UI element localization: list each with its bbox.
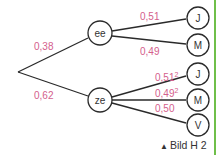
svg-text:J: J: [196, 13, 201, 24]
prob-ze-j: 0,512: [155, 71, 178, 83]
figure-caption: ▲Bild H 2: [160, 139, 207, 151]
svg-text:M: M: [194, 40, 202, 51]
caption-text: Bild H 2: [170, 139, 207, 151]
svg-text:ee: ee: [94, 28, 106, 39]
edge-ze-v: [112, 103, 186, 123]
triangle-marker-icon: ▲: [160, 142, 168, 151]
node-ee-m: M: [187, 34, 209, 56]
prob-ee-j: 0,51: [140, 11, 160, 22]
svg-text:ze: ze: [95, 95, 106, 106]
svg-text:V: V: [195, 120, 202, 131]
prob-ee: 0,38: [34, 41, 54, 52]
green-margin-rule: [214, 0, 216, 155]
edge-ee-m: [112, 36, 186, 44]
node-ze-j: J: [187, 63, 209, 85]
svg-text:M: M: [194, 95, 202, 106]
prob-ze: 0,62: [34, 90, 54, 101]
node-ze-v: V: [187, 114, 209, 136]
node-ee-j: J: [187, 7, 209, 29]
prob-ze-m: 0,492: [155, 87, 178, 99]
prob-ee-m: 0,49: [140, 46, 160, 57]
node-ze-m: M: [187, 89, 209, 111]
node-ee: ee: [88, 21, 112, 45]
node-ze: ze: [88, 88, 112, 112]
svg-text:J: J: [196, 69, 201, 80]
probability-tree: 0,38 0,62 0,51 0,49 0,512 0,492 0,50 ee …: [0, 0, 219, 155]
prob-ze-v: 0,50: [155, 103, 175, 114]
